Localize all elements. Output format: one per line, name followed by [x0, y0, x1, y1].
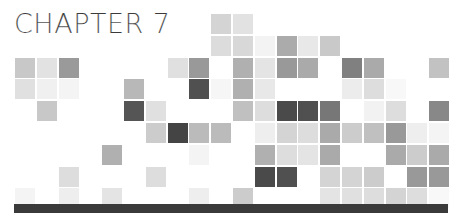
grid-tile [277, 167, 297, 187]
grid-tile [277, 101, 297, 121]
grid-tile [37, 101, 57, 121]
grid-tile [211, 79, 231, 99]
grid-tile [233, 14, 253, 34]
grid-tile [386, 145, 406, 165]
grid-tile [298, 36, 318, 56]
grid-tile [277, 58, 297, 78]
grid-tile [255, 167, 275, 187]
grid-tile [342, 167, 362, 187]
grid-tile [37, 58, 57, 78]
grid-tile [298, 123, 318, 143]
grid-tile [429, 58, 449, 78]
divider-bar [14, 204, 448, 213]
grid-tile [320, 36, 340, 56]
grid-tile [429, 101, 449, 121]
grid-tile [189, 145, 209, 165]
grid-tile [364, 79, 384, 99]
grid-tile [364, 167, 384, 187]
grid-tile [342, 79, 362, 99]
grid-tile [277, 36, 297, 56]
grid-tile [211, 36, 231, 56]
grid-tile [189, 123, 209, 143]
grid-tile [342, 58, 362, 78]
grid-tile [407, 123, 427, 143]
grid-tile [211, 123, 231, 143]
grid-tile [59, 79, 79, 99]
grid-tile [364, 58, 384, 78]
grid-tile [189, 79, 209, 99]
grid-tile [407, 167, 427, 187]
grid-tile [320, 167, 340, 187]
grid-tile [386, 101, 406, 121]
grid-tile [146, 123, 166, 143]
grid-tile [429, 145, 449, 165]
decorative-tile-grid [0, 0, 459, 219]
grid-tile [59, 167, 79, 187]
grid-tile [429, 167, 449, 187]
grid-tile [386, 123, 406, 143]
grid-tile [124, 101, 144, 121]
grid-tile [320, 101, 340, 121]
grid-tile [233, 79, 253, 99]
grid-tile [255, 36, 275, 56]
grid-tile [277, 145, 297, 165]
grid-tile [233, 36, 253, 56]
grid-tile [298, 145, 318, 165]
grid-tile [255, 101, 275, 121]
grid-tile [429, 123, 449, 143]
grid-tile [364, 101, 384, 121]
grid-tile [298, 101, 318, 121]
grid-tile [211, 14, 231, 34]
grid-tile [255, 123, 275, 143]
grid-tile [255, 79, 275, 99]
grid-tile [168, 58, 188, 78]
grid-tile [146, 167, 166, 187]
grid-tile [298, 58, 318, 78]
grid-tile [233, 58, 253, 78]
grid-tile [37, 79, 57, 99]
grid-tile [386, 79, 406, 99]
grid-tile [364, 123, 384, 143]
grid-tile [277, 123, 297, 143]
grid-tile [146, 101, 166, 121]
grid-tile [320, 145, 340, 165]
grid-tile [255, 58, 275, 78]
grid-tile [320, 123, 340, 143]
grid-tile [189, 58, 209, 78]
grid-tile [168, 123, 188, 143]
grid-tile [15, 58, 35, 78]
grid-tile [102, 145, 122, 165]
grid-tile [342, 123, 362, 143]
grid-tile [59, 58, 79, 78]
grid-tile [15, 79, 35, 99]
grid-tile [407, 145, 427, 165]
grid-tile [255, 145, 275, 165]
grid-tile [233, 101, 253, 121]
grid-tile [124, 79, 144, 99]
